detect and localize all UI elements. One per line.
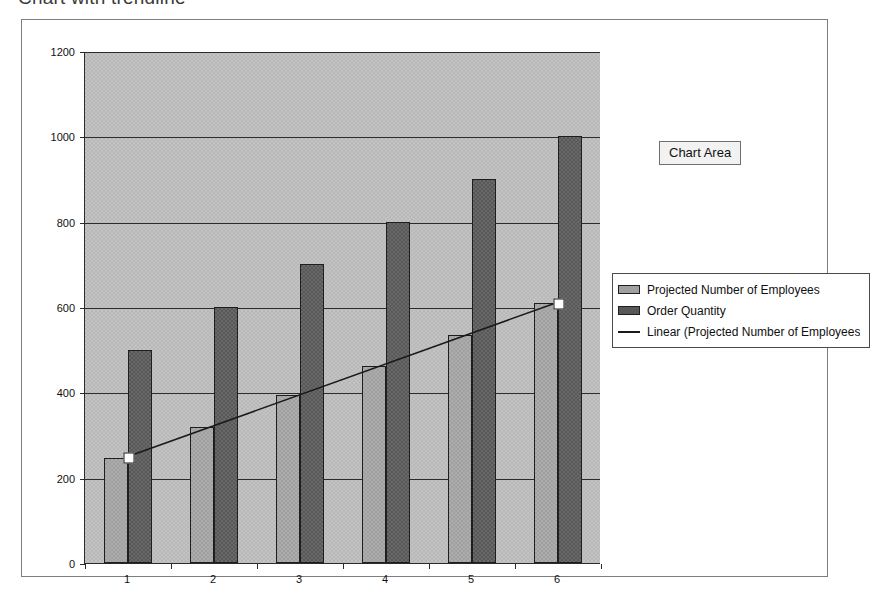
legend-swatch-icon [618,285,640,294]
x-axis-tick-mark [343,564,344,569]
y-axis-tick-label: 1000 [25,131,75,143]
y-axis-tick-label: 800 [25,217,75,229]
x-axis-tick-mark [429,564,430,569]
x-axis-tick-label: 6 [527,573,587,585]
x-axis-tick-mark [85,564,86,569]
chart-legend[interactable]: Projected Number of Employees Order Quan… [612,273,870,348]
x-axis-tick-mark [601,564,602,569]
x-axis-tick-mark [171,564,172,569]
y-axis-tick-mark [80,52,85,53]
y-axis-tick-label: 0 [25,558,75,570]
x-axis-tick-label: 5 [441,573,501,585]
x-axis-tick-mark [515,564,516,569]
legend-label: Projected Number of Employees [647,283,820,297]
y-axis-tick-mark [80,223,85,224]
x-axis-tick-mark [257,564,258,569]
page-title: Chart with trendline [18,0,186,9]
y-axis-tick-label: 600 [25,302,75,314]
chart-frame[interactable]: 020040060080010001200 123456 Chart Area … [21,19,828,577]
legend-item[interactable]: Linear (Projected Number of Employees [618,321,865,342]
trendline[interactable] [85,52,600,563]
y-axis-tick-mark [80,564,85,565]
legend-label: Linear (Projected Number of Employees [647,325,860,339]
y-axis-tick-mark [80,479,85,480]
y-axis-tick-label: 1200 [25,46,75,58]
y-axis-tick-label: 400 [25,387,75,399]
y-axis-tick-mark [80,393,85,394]
legend-line-icon [618,331,640,333]
y-axis-tick-label: 200 [25,473,75,485]
y-axis-tick-mark [80,308,85,309]
x-axis-tick-label: 3 [269,573,329,585]
legend-item[interactable]: Order Quantity [618,300,865,321]
selection-handle[interactable] [124,453,135,464]
x-axis-tick-label: 2 [183,573,243,585]
legend-label: Order Quantity [647,304,726,318]
legend-item[interactable]: Projected Number of Employees [618,279,865,300]
x-axis-tick-label: 1 [97,573,157,585]
x-axis-tick-label: 4 [355,573,415,585]
chart-area-tooltip: Chart Area [659,141,741,165]
y-axis-tick-mark [80,137,85,138]
plot-area[interactable] [84,52,600,564]
selection-handle[interactable] [554,298,565,309]
legend-swatch-icon [618,306,640,315]
